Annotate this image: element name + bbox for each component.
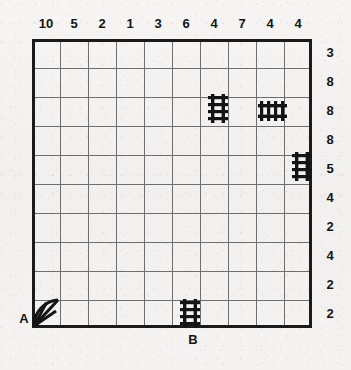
gridline-h-4 bbox=[35, 155, 309, 156]
fan-marker-c1r10[interactable] bbox=[33, 298, 61, 327]
gridline-h-1 bbox=[35, 68, 309, 69]
gridline-h-7 bbox=[35, 242, 309, 243]
end-label-b: B bbox=[186, 333, 200, 347]
gridline-h-8 bbox=[35, 271, 309, 272]
track-horizontal-c9r3[interactable] bbox=[258, 100, 287, 122]
track-vertical-c7r3[interactable] bbox=[207, 94, 229, 123]
row-clue-5: 5 bbox=[322, 162, 338, 176]
row-clue-1: 3 bbox=[322, 46, 338, 60]
start-label-a: A bbox=[17, 312, 31, 326]
column-clue-9: 4 bbox=[256, 17, 284, 31]
puzzle-diagram: 10 5 2 1 3 6 4 7 4 4 3 8 8 8 5 4 2 4 2 2 bbox=[0, 0, 351, 370]
column-clue-5: 3 bbox=[144, 17, 172, 31]
row-clue-3: 8 bbox=[322, 104, 338, 118]
column-clue-1: 10 bbox=[32, 17, 60, 31]
column-clue-2: 5 bbox=[60, 17, 88, 31]
row-clue-10: 2 bbox=[322, 307, 338, 321]
vertical-track-icon bbox=[291, 152, 313, 181]
puzzle-grid[interactable] bbox=[32, 39, 312, 328]
row-clue-2: 8 bbox=[322, 75, 338, 89]
column-clue-4: 1 bbox=[116, 17, 144, 31]
row-clue-7: 2 bbox=[322, 220, 338, 234]
track-vertical-c10r5[interactable] bbox=[291, 152, 313, 181]
gridline-h-5 bbox=[35, 184, 309, 185]
column-clue-3: 2 bbox=[88, 17, 116, 31]
column-clue-7: 4 bbox=[200, 17, 228, 31]
gridline-h-6 bbox=[35, 213, 309, 214]
gridline-h-9 bbox=[35, 300, 309, 301]
column-clue-8: 7 bbox=[228, 17, 256, 31]
gridline-h-2 bbox=[35, 97, 309, 98]
track-vertical-c6r10[interactable] bbox=[179, 299, 201, 328]
row-clue-9: 2 bbox=[322, 278, 338, 292]
column-clue-10: 4 bbox=[284, 17, 312, 31]
gridline-h-3 bbox=[35, 126, 309, 127]
row-clue-6: 4 bbox=[322, 191, 338, 205]
vertical-track-icon bbox=[179, 299, 201, 328]
row-clue-4: 8 bbox=[322, 133, 338, 147]
fan-marker-icon bbox=[33, 298, 61, 327]
vertical-track-icon bbox=[207, 94, 229, 123]
horizontal-track-icon bbox=[258, 100, 287, 122]
row-clue-8: 4 bbox=[322, 249, 338, 263]
column-clue-6: 6 bbox=[172, 17, 200, 31]
